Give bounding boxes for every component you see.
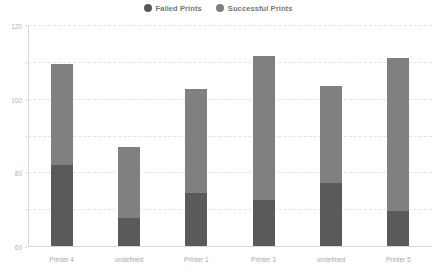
bar-segment-successful-prints[interactable] [320,86,342,184]
legend-item-successful-prints[interactable]: Successful Prints [216,4,293,13]
x-axis-category-label: Printer 1 [184,256,209,263]
bar-segment-successful-prints[interactable] [185,89,207,192]
legend-item-failed-prints[interactable]: Failed Prints [144,4,202,13]
y-tick-mark-100 [25,62,29,63]
x-axis-category-label: Printer 4 [49,256,74,263]
y-tick-mark-120 [25,26,29,27]
bar-group[interactable]: undefined [118,147,140,246]
gridline-60: 60 [28,136,432,137]
bar-group[interactable]: Printer 1 [185,89,207,246]
gridline-100: 100 [28,62,432,63]
bar-group[interactable]: undefined [320,86,342,246]
x-axis-category-label: Printer 3 [251,256,276,263]
bar-segment-failed-prints[interactable] [320,183,342,246]
y-tick-mark-80 [25,99,29,100]
bar-segment-failed-prints[interactable] [387,211,409,246]
y-tick-mark-60 [25,136,29,137]
bar-segment-failed-prints[interactable] [185,193,207,246]
gridline-120: 120 [28,25,432,26]
bar-segment-failed-prints[interactable] [51,165,73,246]
circle-swatch-icon [216,4,224,12]
bar-group[interactable]: Printer 3 [253,56,275,246]
y-tick-label-60: 60 [15,244,22,251]
bar-segment-successful-prints[interactable] [387,58,409,211]
x-axis-category-label: Printer 5 [386,256,411,263]
gridline-20: 20 [28,209,432,210]
x-axis-category-label: undefined [317,256,346,263]
bar-segment-failed-prints[interactable] [253,200,275,246]
y-tick-mark-40 [25,173,29,174]
circle-swatch-icon [144,4,152,12]
bar-group[interactable]: Printer 4 [51,64,73,246]
y-tick-mark-20 [25,210,29,211]
y-tick-mark-0 [25,247,29,248]
bar-segment-successful-prints[interactable] [51,64,73,165]
gridline-80: 80 [28,99,432,100]
bar-segment-failed-prints[interactable] [118,218,140,246]
chart-legend: Failed Prints Successful Prints [0,0,436,16]
legend-label-failed-prints: Failed Prints [156,4,202,13]
y-tick-label-80: 80 [15,170,22,177]
bar-chart-plot-area: 020406080100120 Printer 4undefinedPrinte… [28,25,432,247]
legend-label-successful-prints: Successful Prints [228,4,293,13]
x-axis-category-label: undefined [115,256,144,263]
gridline-0: 0 [28,246,432,247]
y-tick-label-120: 120 [11,23,22,30]
bar-segment-successful-prints[interactable] [253,56,275,200]
y-tick-label-100: 100 [11,96,22,103]
gridline-40: 40 [28,172,432,173]
bar-segment-successful-prints[interactable] [118,147,140,219]
bar-group[interactable]: Printer 5 [387,58,409,246]
